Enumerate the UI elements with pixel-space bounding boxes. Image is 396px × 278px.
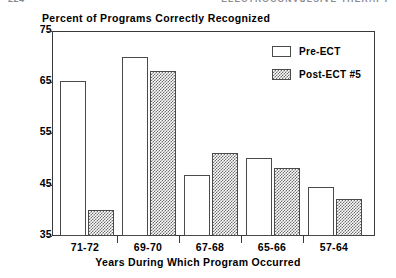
bar-post-69-70 bbox=[150, 71, 176, 236]
bar-pre-71-72 bbox=[60, 81, 86, 236]
page-folio: 224 bbox=[8, 0, 25, 4]
legend-swatch-pre-ect bbox=[272, 46, 291, 57]
bar-post-67-68 bbox=[212, 153, 238, 236]
x-axis-label-65-66: 65-66 bbox=[241, 241, 303, 253]
bar-pre-69-70 bbox=[122, 57, 148, 236]
y-axis-label-45: 45 bbox=[26, 177, 52, 189]
bar-pre-67-68 bbox=[184, 175, 210, 237]
x-axis-label-71-72: 71-72 bbox=[55, 241, 115, 253]
x-axis-label-67-68: 67-68 bbox=[179, 241, 241, 253]
y-axis-label-65: 65 bbox=[26, 74, 52, 86]
x-axis-label-57-64: 57-64 bbox=[303, 241, 365, 253]
y-axis-label-75: 75 bbox=[26, 23, 52, 35]
y-axis-label-35: 35 bbox=[26, 228, 52, 240]
chart-title: Percent of Programs Correctly Recognized bbox=[42, 12, 270, 24]
figure: 224 ELECTROCONVULSIVE THERAPY Percent of… bbox=[0, 0, 396, 278]
x-axis-title: Years During Which Program Occurred bbox=[0, 256, 396, 268]
page-running-header: 224 ELECTROCONVULSIVE THERAPY bbox=[0, 0, 396, 9]
bar-pre-57-64 bbox=[308, 187, 334, 236]
running-title: ELECTROCONVULSIVE THERAPY bbox=[221, 0, 390, 4]
legend-swatch-post-ect bbox=[272, 69, 291, 80]
legend-label-pre-ect: Pre-ECT bbox=[299, 46, 341, 57]
chart-legend: Pre-ECT Post-ECT #5 bbox=[272, 44, 361, 90]
y-axis-label-55: 55 bbox=[26, 125, 52, 137]
legend-label-post-ect: Post-ECT #5 bbox=[299, 69, 361, 80]
bar-post-65-66 bbox=[274, 168, 300, 236]
y-tick-mark-35 bbox=[46, 236, 52, 237]
legend-item-post-ect: Post-ECT #5 bbox=[272, 67, 361, 82]
legend-item-pre-ect: Pre-ECT bbox=[272, 44, 361, 59]
x-axis-label-69-70: 69-70 bbox=[117, 241, 179, 253]
bar-post-57-64 bbox=[336, 199, 362, 236]
bar-pre-65-66 bbox=[246, 158, 272, 236]
bar-post-71-72 bbox=[88, 210, 114, 236]
